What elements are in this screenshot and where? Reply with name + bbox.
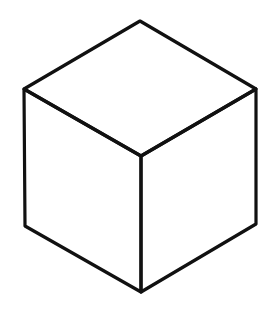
cube-top-face	[24, 21, 256, 156]
cube-diagram	[0, 0, 275, 312]
cube-left-face	[24, 89, 141, 292]
cube-right-face	[141, 89, 256, 292]
